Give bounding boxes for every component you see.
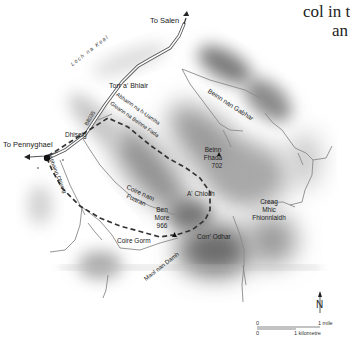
compass-n-label: N — [316, 300, 323, 310]
label-to-salen: To Salen — [150, 17, 179, 25]
scale-bar — [257, 327, 320, 329]
scale-zero-km: 0 — [256, 330, 259, 336]
arrow-to-salen — [183, 11, 189, 16]
label-beinn-fhada: Beinn Fhada 702 — [196, 146, 230, 170]
label-beinn-fhada-1: Beinn — [196, 146, 230, 154]
label-corr-odhar: Corr' Odhar — [197, 234, 231, 241]
label-creag-mhic-fhionnlaidh: Creag Mhic Fhionnlaidh — [246, 198, 292, 222]
label-beinn-fhada-height: 702 — [196, 162, 230, 170]
book-text-line2: an — [332, 22, 348, 39]
label-to-pennyghael: To Pennyghael — [3, 141, 53, 149]
label-ben-more-height: 966 — [149, 222, 175, 230]
label-beinn-fhada-2: Fhada — [196, 154, 230, 162]
label-ben-more: Ben More 966 — [149, 206, 175, 230]
scale-zero-mile: 0 — [256, 320, 259, 326]
label-creag-2: Mhic — [246, 206, 292, 214]
label-coire-gorm: Coire Gorm — [117, 238, 151, 245]
label-ben-more-1: Ben — [149, 206, 175, 214]
label-creag-1: Creag — [246, 198, 292, 206]
label-creag-3: Fhionnlaidh — [246, 214, 292, 222]
scale-one-mile: 1 mile — [318, 320, 333, 326]
label-dhiseig: Dhiseig — [65, 132, 87, 139]
scale-one-km: 1 kilometre — [294, 330, 321, 336]
label-a-chioch: A' Chioch — [187, 191, 215, 198]
label-torr-a-bhlair: Torr a' Bhlair — [109, 82, 148, 89]
arrow-to-pennyghael — [24, 154, 30, 160]
label-ben-more-2: More — [149, 214, 175, 222]
book-text-line1: col in t — [303, 3, 350, 20]
